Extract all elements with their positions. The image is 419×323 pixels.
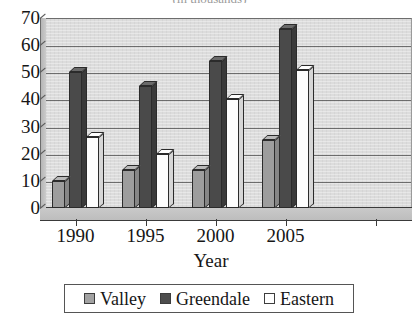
bar-valley-1995: [122, 170, 135, 208]
y-axis-tick-label: 50: [2, 62, 40, 81]
x-axis-tick-label-1990: 1990: [46, 226, 106, 246]
legend-swatch-icon: [160, 293, 171, 304]
bar-face: [296, 70, 309, 208]
bar-eastern-1990: [86, 137, 99, 208]
bar-face: [52, 181, 65, 208]
chart-legend: ValleyGreendaleEastern: [64, 284, 354, 313]
x-axis-end-tick: [376, 219, 377, 226]
legend-item-label: Greendale: [176, 290, 250, 308]
y-axis-tick-label: 30: [2, 117, 40, 136]
y-axis-tick-label: 20: [2, 144, 40, 163]
x-axis-title: Year: [46, 250, 376, 272]
x-axis-tick-label-2005: 2005: [256, 226, 316, 246]
bar-side: [292, 25, 297, 208]
bar-side: [169, 150, 174, 208]
bar-series-container: [46, 18, 412, 208]
legend-swatch-icon: [264, 293, 275, 304]
y-axis-tick-label: 60: [2, 35, 40, 54]
bar-face: [209, 61, 222, 208]
y-axis-tick-labels: 010203040506070: [0, 14, 40, 226]
y-axis-tick-label: 40: [2, 89, 40, 108]
bar-group-2000: [192, 18, 262, 208]
chart-title: (in thousands): [0, 0, 419, 3]
bar-eastern-2000: [226, 99, 239, 208]
bar-side: [135, 166, 140, 208]
bar-greendale-2000: [209, 61, 222, 208]
bar-side: [309, 65, 314, 208]
bar-greendale-1990: [69, 72, 82, 208]
bar-side: [239, 95, 244, 208]
bar-face: [262, 140, 275, 208]
bar-face: [156, 154, 169, 208]
bar-side: [222, 57, 227, 208]
bar-group-2005: [262, 18, 332, 208]
x-axis: 1990199520002005: [0, 226, 419, 252]
bar-group-1995: [122, 18, 192, 208]
bar-face: [86, 137, 99, 208]
bar-valley-2000: [192, 170, 205, 208]
y-axis-tick-label: 70: [2, 8, 40, 27]
bar-side: [82, 68, 87, 208]
bar-face: [226, 99, 239, 208]
bar-side: [99, 133, 104, 208]
bar-face: [279, 29, 292, 208]
bar-side: [152, 82, 157, 208]
bar-valley-1990: [52, 181, 65, 208]
bar-greendale-1995: [139, 86, 152, 208]
chart-plot-region: 010203040506070: [0, 14, 419, 226]
bar-face: [122, 170, 135, 208]
bar-eastern-1995: [156, 154, 169, 208]
legend-item-valley[interactable]: Valley: [84, 290, 146, 308]
bar-side: [205, 166, 210, 208]
legend-item-label: Valley: [100, 290, 146, 308]
bar-side: [275, 136, 280, 208]
bar-group-1990: [52, 18, 122, 208]
legend-item-eastern[interactable]: Eastern: [264, 290, 334, 308]
legend-swatch-icon: [84, 293, 95, 304]
plot-floor: [40, 208, 412, 221]
bar-face: [139, 86, 152, 208]
bar-side: [65, 177, 70, 208]
bar-valley-2005: [262, 140, 275, 208]
x-axis-tick-label-2000: 2000: [186, 226, 246, 246]
bar-greendale-2005: [279, 29, 292, 208]
y-axis-tick-label: 0: [2, 198, 40, 217]
bar-face: [69, 72, 82, 208]
legend-item-label: Eastern: [280, 290, 334, 308]
legend-item-greendale[interactable]: Greendale: [160, 290, 250, 308]
x-axis-tick-label-1995: 1995: [116, 226, 176, 246]
y-axis-tick-label: 10: [2, 171, 40, 190]
bar-face: [192, 170, 205, 208]
bar-eastern-2005: [296, 70, 309, 208]
